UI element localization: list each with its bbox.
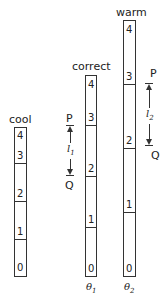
p2-label: P [150, 68, 157, 79]
warm-mark-4: 4 [126, 25, 132, 35]
theta2-label: θ2 [124, 281, 135, 297]
correct-mark-4: 4 [88, 80, 94, 90]
q2-tick [145, 145, 153, 146]
correct-mark-0: 0 [88, 264, 94, 274]
cool-bar: 4 3 2 1 0 [14, 127, 27, 277]
warm-bar: 4 3 2 1 0 [123, 20, 136, 277]
cool-mark-3: 3 [17, 151, 23, 161]
correct-mark-3: 3 [88, 113, 94, 123]
warm-mark-2: 2 [126, 136, 132, 146]
warm-mark-3: 3 [126, 72, 132, 82]
q1-tick [66, 175, 74, 176]
correct-divider-1 [86, 227, 96, 228]
l1-label: l1 [67, 143, 75, 159]
p1-label: P [66, 113, 73, 124]
cool-label: cool [9, 114, 32, 125]
warm-divider-2 [124, 148, 135, 149]
q1-label: Q [65, 180, 74, 191]
theta1-label: θ1 [86, 281, 97, 297]
l2-label: l2 [146, 108, 154, 124]
warm-divider-1 [124, 212, 135, 213]
warm-label: warm [116, 7, 147, 18]
cool-divider-2 [15, 201, 26, 202]
cool-mark-2: 2 [17, 189, 23, 199]
warm-mark-0: 0 [126, 264, 132, 274]
correct-divider-2 [86, 176, 96, 177]
warm-divider-3 [124, 84, 135, 85]
correct-label: correct [72, 61, 111, 72]
warm-mark-1: 1 [126, 200, 132, 210]
correct-mark-2: 2 [88, 164, 94, 174]
correct-divider-3 [86, 125, 96, 126]
cool-mark-0: 0 [17, 263, 23, 273]
cool-divider-3 [15, 163, 26, 164]
cool-divider-1 [15, 239, 26, 240]
cool-mark-1: 1 [17, 227, 23, 237]
correct-mark-1: 1 [88, 215, 94, 225]
correct-bar: 4 3 2 1 0 [85, 75, 97, 277]
q2-label: Q [151, 150, 160, 161]
cool-mark-4: 4 [17, 131, 23, 141]
